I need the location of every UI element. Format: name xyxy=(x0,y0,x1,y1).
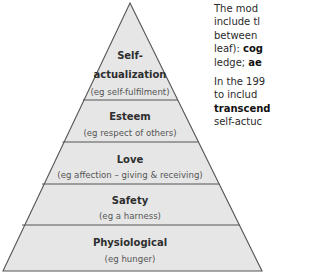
text-line: include tl xyxy=(214,16,260,27)
level-title: Love xyxy=(117,154,144,165)
text-line: between xyxy=(214,30,257,41)
bold-term: ae xyxy=(248,57,262,68)
level-subtitle: (eg self-fulfilment) xyxy=(90,87,169,97)
paragraph-1: The mod include tl between leaf): cog le… xyxy=(214,2,270,69)
text-line: The mod xyxy=(214,3,258,14)
level-subtitle: (eg a harness) xyxy=(99,211,161,221)
level-title: Safety xyxy=(112,195,149,206)
level-title: Esteem xyxy=(109,111,151,122)
level-subtitle: (eg respect of others) xyxy=(83,128,176,138)
level-title: actualization xyxy=(94,69,167,80)
text-line: In the 199 xyxy=(214,76,265,87)
level-title: Physiological xyxy=(93,237,167,248)
text-line: leaf): xyxy=(214,43,243,54)
side-text: The mod include tl between leaf): cog le… xyxy=(214,2,270,135)
level-title: Self- xyxy=(117,50,143,61)
level-subtitle: (eg affection – giving & receiving) xyxy=(57,170,202,180)
text-line: to includ xyxy=(214,89,257,100)
bold-term: cog xyxy=(243,43,263,54)
paragraph-2: In the 199 to includ transcend self-actu… xyxy=(214,75,270,129)
level-self-actualization: Self- actualization (eg self-fulfilment) xyxy=(90,50,169,97)
bold-term: transcend xyxy=(214,103,270,114)
text-line: self-actuc xyxy=(214,116,262,127)
level-subtitle: (eg hunger) xyxy=(105,254,156,264)
text-line: ledge; xyxy=(214,57,248,68)
